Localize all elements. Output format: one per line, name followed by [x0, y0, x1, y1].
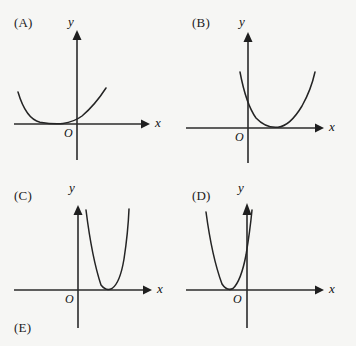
origin-label-b: O [235, 130, 244, 145]
x-axis-arrow-c [143, 286, 152, 295]
origin-label-c: O [65, 292, 74, 307]
y-axis-arrow-c [74, 205, 83, 215]
y-axis-arrow-d [243, 203, 252, 215]
x-axis-label-a: x [155, 115, 161, 131]
y-axis-label-c: y [69, 180, 75, 196]
option-panel-d[interactable]: (D) y x O [178, 173, 356, 346]
origin-label-d: O [233, 292, 242, 307]
x-axis-label-c: x [157, 281, 163, 297]
x-axis-label-d: x [329, 281, 335, 297]
parabola-curve-a [18, 88, 106, 124]
option-panel-b[interactable]: (B) y x O [178, 0, 356, 173]
option-label-e[interactable]: (E) [14, 320, 31, 336]
x-axis-arrow-a [141, 120, 150, 129]
figure-canvas: (A) y x O (B) y x O [0, 0, 356, 346]
parabola-curve-b [240, 72, 315, 127]
y-axis-label-a: y [68, 14, 74, 30]
y-axis-label-d: y [238, 180, 244, 196]
graph-a [0, 0, 178, 173]
x-axis-arrow-d [315, 286, 324, 295]
x-axis-arrow-b [315, 124, 324, 133]
graph-b [178, 0, 356, 173]
y-axis-arrow-a [73, 30, 82, 40]
parabola-curve-c [86, 209, 129, 289]
parabola-curve-d [206, 210, 252, 289]
option-panel-a[interactable]: (A) y x O [0, 0, 178, 173]
origin-label-a: O [64, 126, 73, 141]
y-axis-label-b: y [239, 14, 245, 30]
x-axis-label-b: x [329, 119, 335, 135]
y-axis-arrow-b [244, 32, 253, 42]
graph-d [178, 173, 356, 346]
